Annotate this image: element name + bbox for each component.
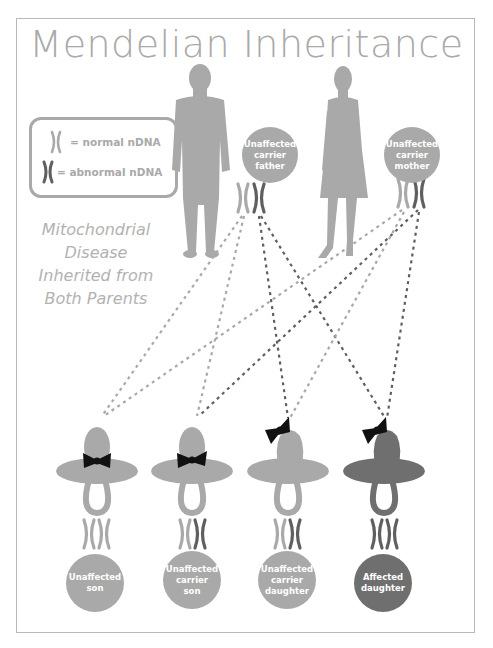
badge-line: mother [386,161,438,172]
badge-line: Unaffected [69,572,121,583]
badge-line: Unaffected [261,564,313,575]
badge-line: Unaffected [386,139,438,150]
abnormal-chromosome-icon [290,520,300,548]
normal-chromosome-icon [275,520,285,548]
abnormal-chromosome-icon [254,184,264,212]
subtitle-line: Disease [22,241,170,264]
father-chromosomes [238,184,264,212]
daughter-1-label-badge: Unaffected carrier daughter [258,551,316,609]
line-father-abnormal-daughter1 [259,216,288,418]
son-1-chromosomes [84,520,109,548]
line-mother-abnormal-daughter2 [387,212,419,418]
daughter-2-label-badge: Affected daughter [354,554,412,612]
abnormal-chromosome-icon [414,179,424,207]
mother-label-badge: Unaffected carrier mother [384,127,440,183]
legend-label-normal: = normal nDNA [70,136,161,148]
legend-label-abnormal: = abnormal nDNA [57,166,162,178]
badge-line: Unaffected [244,139,296,150]
line-father-abnormal-daughter2 [261,216,385,418]
child-daughter-1-pacifier [247,417,329,513]
badge-line: son [166,586,218,597]
subtitle-line: Both Parents [22,287,170,310]
legend-item-normal: = normal nDNA [50,130,161,154]
abnormal-chromosome-icon [387,520,397,548]
badge-line: carrier [386,150,438,161]
badge-line: carrier [244,150,296,161]
father-label-badge: Unaffected carrier father [242,127,298,183]
child-son-2-pacifier [151,427,233,513]
subtitle-line: Inherited from [22,264,170,287]
normal-chromosome-icon [180,520,190,548]
abnormal-chromosome-icon [42,160,54,184]
normal-chromosome-icon [398,179,408,207]
daughter-1-chromosomes [275,520,300,548]
badge-line: carrier [166,575,218,586]
badge-line: daughter [361,583,405,594]
badge-line: daughter [261,586,313,597]
normal-chromosome-icon [99,520,109,548]
child-daughter-2-pacifier [343,417,425,513]
mother-chromosomes [398,179,424,207]
legend-box: = normal nDNA = abnormal nDNA [29,117,178,198]
normal-chromosome-icon [84,520,94,548]
daughter-2-chromosomes [372,520,397,548]
normal-chromosome-icon [238,184,248,212]
child-son-1-pacifier [56,427,138,513]
inheritance-diagram [0,0,493,648]
son-1-label-badge: Unaffected son [66,554,124,612]
diagram-subtitle: Mitochondrial Disease Inherited from Bot… [22,218,170,310]
badge-line: father [244,161,296,172]
badge-line: Affected [361,572,405,583]
badge-line: Unaffected [166,564,218,575]
badge-line: carrier [261,575,313,586]
legend-item-abnormal: = abnormal nDNA [42,160,162,184]
mother-silhouette [318,66,368,258]
subtitle-line: Mitochondrial [22,218,170,241]
abnormal-chromosome-icon [195,520,205,548]
abnormal-chromosome-icon [372,520,382,548]
normal-chromosome-icon [50,130,62,154]
badge-line: son [69,583,121,594]
son-2-label-badge: Unaffected carrier son [163,551,221,609]
son-2-chromosomes [180,520,205,548]
father-silhouette [172,64,230,258]
